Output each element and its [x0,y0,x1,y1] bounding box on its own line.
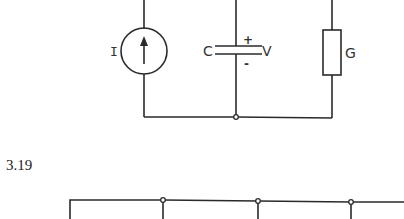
resistor-icon [323,30,341,75]
arrow-up-icon [140,36,148,46]
circuit-diagram: I C V + - G 3.19 [0,0,404,219]
top-rail [70,200,404,219]
figure-number: 3.19 [6,157,32,173]
junction-node-1 [161,198,166,203]
capacitor-label: C [203,43,213,59]
junction-node [234,115,239,120]
current-source-label: I [110,44,118,59]
top-circuit: I C V + - G [110,0,356,119]
junction-node-2 [256,199,261,204]
junction-node-3 [349,200,354,205]
voltage-label: V [262,43,272,59]
minus-sign: - [244,57,249,71]
conductance-label: G [345,45,356,61]
bottom-circuit [70,198,404,219]
plus-sign: + [243,33,253,47]
